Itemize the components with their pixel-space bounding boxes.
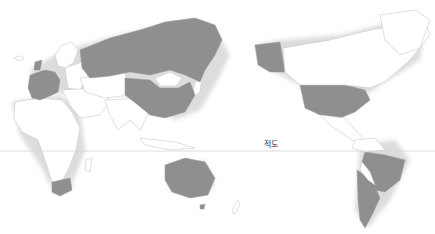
country-russia	[80, 18, 222, 82]
madagascar	[85, 158, 92, 172]
country-usa	[300, 85, 370, 118]
country-australia	[165, 158, 215, 198]
country-western-europe	[28, 70, 60, 100]
world-map	[0, 0, 435, 234]
greenland-small-islands	[14, 56, 24, 61]
indonesia	[140, 138, 195, 150]
new-zealand	[232, 200, 240, 215]
country-alaska	[255, 42, 285, 72]
equator-label: 적도	[264, 138, 278, 149]
northern-south-america	[352, 138, 385, 152]
country-tasmania	[200, 204, 205, 209]
